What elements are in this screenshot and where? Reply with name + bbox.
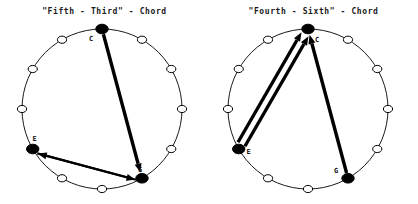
node-C [96, 24, 108, 34]
arrow-shaft [37, 153, 126, 177]
node-pos-9 [223, 105, 232, 112]
chromatic-circle-diagram: CGE [0, 0, 209, 204]
node-pos-1 [343, 36, 352, 43]
node-label-E: E [247, 148, 251, 156]
node-label-G: G [334, 167, 338, 175]
arrowhead [126, 174, 136, 181]
arrow-e-to-g [37, 153, 135, 180]
node-pos-4 [167, 145, 176, 152]
node-pos-7 [263, 175, 272, 182]
node-label-C: C [89, 35, 93, 43]
arrow-shaft [238, 40, 297, 142]
panel-fifth-third: "Fifth - Third" - Chord CGE [0, 0, 209, 204]
node-pos-11 [263, 36, 272, 43]
node-pos-6 [303, 185, 312, 192]
circle-outline [22, 29, 182, 189]
arrow-shaft [312, 43, 347, 172]
arrow-shaft [245, 44, 304, 146]
node-pos-10 [234, 65, 243, 72]
arrow-c-to-g [103, 34, 141, 172]
diagram-stage: CGE [209, 0, 418, 204]
node-pos-11 [57, 36, 66, 43]
circle-outline [228, 29, 388, 189]
arrow-e-to-c-inner [245, 36, 309, 146]
node-pos-4 [373, 145, 382, 152]
arrow-g-to-c [309, 35, 347, 173]
arrow-shaft [103, 34, 138, 163]
node-pos-3 [177, 105, 186, 112]
node-pos-2 [167, 65, 176, 72]
diagram-stage: CGE [0, 0, 209, 204]
node-pos-6 [97, 185, 106, 192]
node-pos-7 [57, 175, 66, 182]
node-pos-3 [383, 105, 392, 112]
node-label-C: C [315, 36, 319, 44]
arrow-e-to-c-outer [238, 32, 302, 142]
node-C [302, 24, 314, 34]
node-label-G: G [138, 166, 142, 174]
node-E [27, 144, 39, 154]
node-pos-2 [373, 65, 382, 72]
panel-fourth-sixth: "Fourth - Sixth" - Chord CGE [209, 0, 418, 204]
node-pos-10 [28, 65, 37, 72]
node-G [136, 173, 148, 183]
node-E [233, 144, 245, 154]
chromatic-circle-diagram: CGE [209, 0, 418, 204]
node-label-E: E [33, 135, 37, 143]
node-G [342, 173, 354, 183]
node-pos-9 [17, 105, 26, 112]
node-pos-1 [137, 36, 146, 43]
